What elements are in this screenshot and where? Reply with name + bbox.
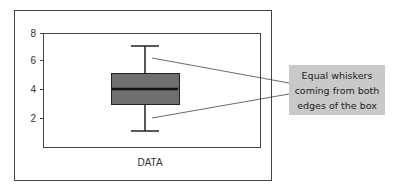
x-axis-label: DATA — [137, 157, 163, 168]
y-axis-labels: 8 6 4 2 — [30, 28, 36, 124]
tick-8: 8 — [30, 28, 36, 39]
tick-6: 6 — [30, 55, 36, 66]
callout-line-2: coming from both — [295, 83, 380, 98]
tick-2: 2 — [30, 113, 36, 124]
y-axis-ticks — [40, 34, 43, 119]
callout-line-3: edges of the box — [295, 98, 380, 113]
tick-4: 4 — [30, 84, 36, 95]
callout-line-1: Equal whiskers — [295, 68, 380, 83]
annotation-callout: Equal whiskers coming from both edges of… — [289, 65, 385, 115]
